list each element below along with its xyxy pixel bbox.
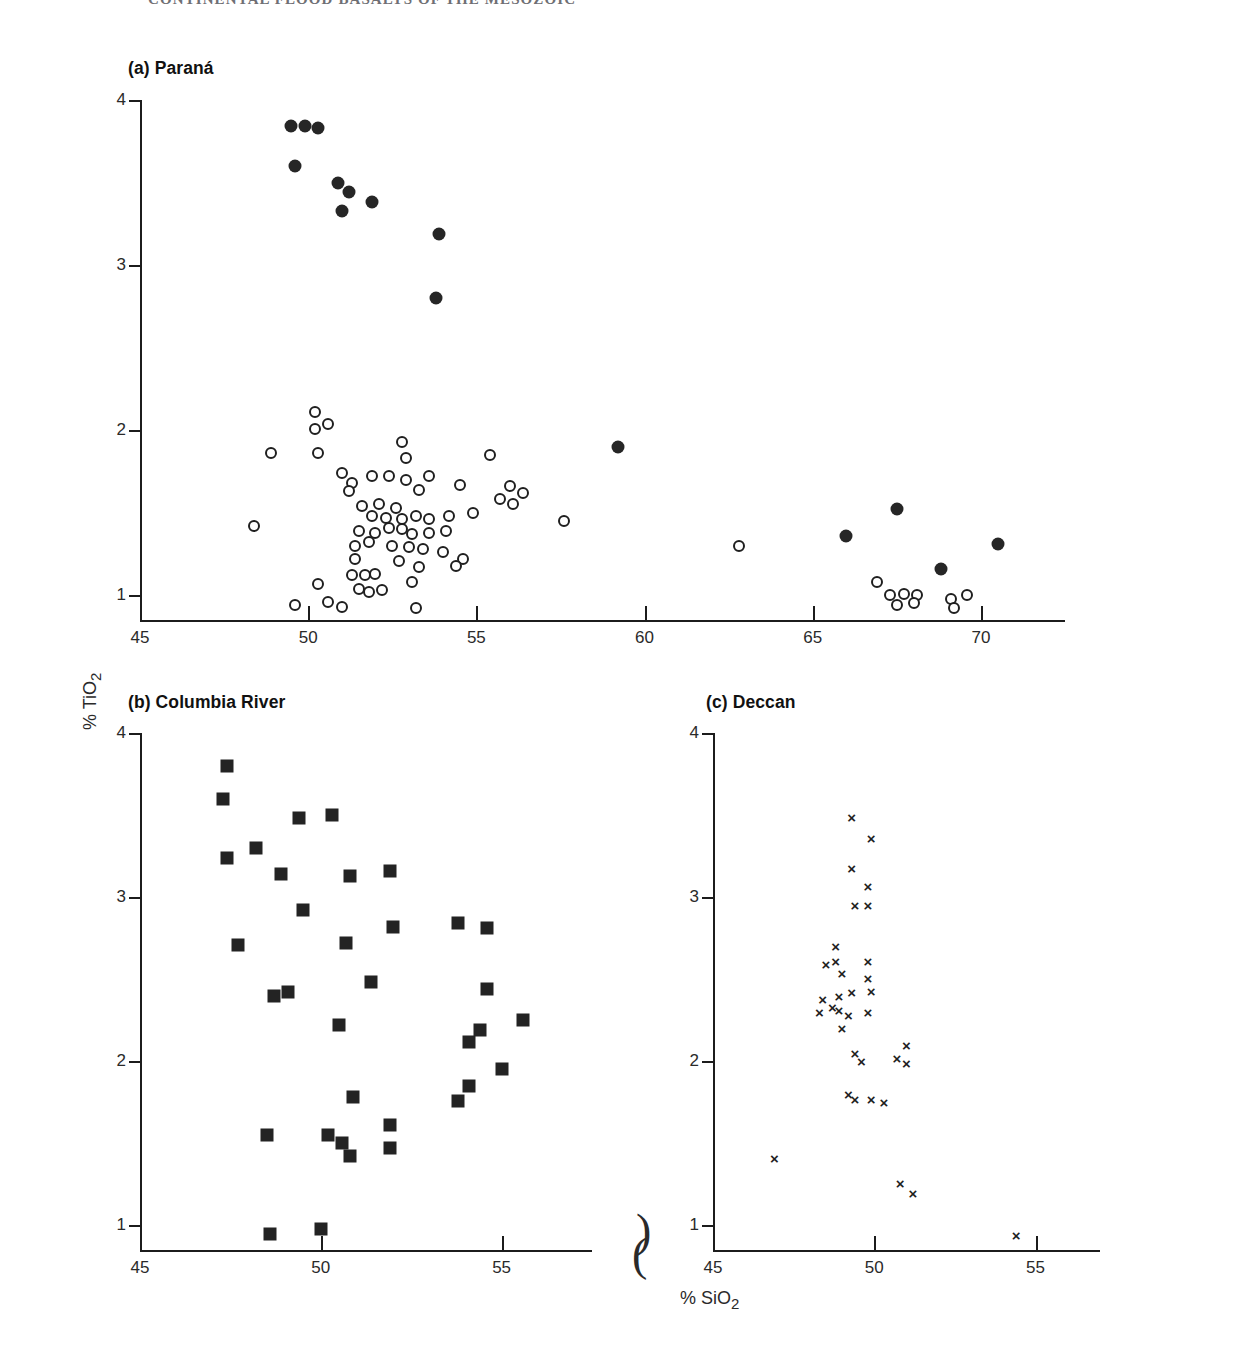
- data-point-a-s1-44: [403, 541, 415, 553]
- data-point-b-s0-31: [343, 1150, 356, 1163]
- y-tick-label-c-2: 2: [671, 1051, 699, 1071]
- x-tick-a-60: [645, 606, 647, 620]
- data-point-c-s0-21: ×: [836, 1022, 849, 1035]
- data-point-a-s0-14: [991, 538, 1004, 551]
- data-point-a-s0-13: [934, 562, 947, 575]
- data-point-c-s0-26: ×: [900, 1056, 913, 1069]
- data-point-a-s0-7: [366, 196, 379, 209]
- x-tick-c-50: [874, 1236, 876, 1250]
- x-tick-label-a-50: 50: [299, 628, 318, 648]
- data-point-b-s0-12: [387, 920, 400, 933]
- data-point-b-s0-9: [296, 904, 309, 917]
- data-point-b-s0-11: [340, 937, 353, 950]
- y-tick-a-4: [129, 100, 142, 102]
- data-point-a-s1-50: [413, 561, 425, 573]
- data-point-b-s0-16: [282, 986, 295, 999]
- data-point-c-s0-33: ×: [906, 1186, 919, 1199]
- panel-title-b: (b) Columbia River: [128, 692, 285, 713]
- data-point-c-s0-6: ×: [829, 940, 842, 953]
- data-point-a-s1-20: [356, 500, 368, 512]
- data-point-a-s1-60: [289, 599, 301, 611]
- data-point-c-s0-9: ×: [836, 966, 849, 979]
- data-point-b-s0-0: [220, 759, 233, 772]
- data-point-a-s1-19: [248, 520, 260, 532]
- x-tick-label-a-70: 70: [971, 628, 990, 648]
- data-point-a-s1-22: [390, 502, 402, 514]
- y-axis-title-subscript: 2: [87, 673, 104, 681]
- x-tick-label-c-50: 50: [865, 1258, 884, 1278]
- x-tick-label-a-55: 55: [467, 628, 486, 648]
- y-tick-label-a-4: 4: [98, 90, 126, 110]
- y-tick-b-1: [129, 1225, 142, 1227]
- y-tick-label-a-3: 3: [98, 255, 126, 275]
- data-point-a-s1-68: [891, 599, 903, 611]
- data-point-a-s1-49: [393, 555, 405, 567]
- data-point-a-s1-1: [309, 423, 321, 435]
- data-point-a-s0-8: [433, 227, 446, 240]
- y-tick-label-b-3: 3: [98, 887, 126, 907]
- y-tick-b-2: [129, 1061, 142, 1063]
- y-tick-b-3: [129, 897, 142, 899]
- y-tick-label-c-4: 4: [671, 723, 699, 743]
- x-tick-a-55: [476, 606, 478, 620]
- data-point-b-s0-2: [220, 851, 233, 864]
- data-point-a-s1-38: [406, 528, 418, 540]
- x-axis-title: % SiO2: [680, 1288, 739, 1312]
- y-tick-label-a-2: 2: [98, 420, 126, 440]
- data-point-b-s0-4: [293, 812, 306, 825]
- data-point-a-s1-45: [417, 543, 429, 555]
- data-point-b-s0-6: [275, 868, 288, 881]
- data-point-c-s0-1: ×: [865, 832, 878, 845]
- data-point-a-s1-64: [871, 576, 883, 588]
- data-point-b-s0-18: [481, 983, 494, 996]
- data-point-c-s0-30: ×: [877, 1096, 890, 1109]
- data-point-a-s1-11: [383, 470, 395, 482]
- data-point-b-s0-34: [314, 1222, 327, 1235]
- data-point-a-s0-2: [312, 122, 325, 135]
- data-point-a-s1-59: [376, 584, 388, 596]
- data-point-b-s0-14: [481, 922, 494, 935]
- data-point-a-s1-0: [309, 406, 321, 418]
- data-point-c-s0-0: ×: [845, 810, 858, 823]
- x-axis-title-main: % SiO: [680, 1288, 731, 1308]
- x-tick-a-70: [981, 606, 983, 620]
- data-point-b-s0-3: [249, 841, 262, 854]
- data-point-a-s1-54: [369, 568, 381, 580]
- data-point-a-s1-12: [400, 474, 412, 486]
- data-point-a-s1-28: [410, 510, 422, 522]
- data-point-c-s0-2: ×: [845, 861, 858, 874]
- data-point-b-s0-29: [322, 1129, 335, 1142]
- data-point-a-s1-18: [517, 487, 529, 499]
- data-point-a-s0-3: [288, 160, 301, 173]
- data-point-a-s1-36: [383, 522, 395, 534]
- data-point-c-s0-14: ×: [845, 986, 858, 999]
- data-point-c-s0-10: ×: [861, 955, 874, 968]
- data-point-a-s0-10: [611, 440, 624, 453]
- x-tick-c-55: [1036, 1236, 1038, 1250]
- data-point-b-s0-21: [473, 1024, 486, 1037]
- data-point-a-s1-25: [366, 510, 378, 522]
- y-tick-b-4: [129, 733, 142, 735]
- data-point-b-s0-5: [325, 809, 338, 822]
- data-point-b-s0-22: [517, 1014, 530, 1027]
- data-point-a-s0-11: [890, 503, 903, 516]
- x-axis-line-c: [713, 1250, 1100, 1252]
- y-tick-a-1: [129, 595, 142, 597]
- x-axis-line-b: [140, 1250, 592, 1252]
- x-tick-b-50: [321, 1236, 323, 1250]
- data-point-b-s0-30: [336, 1137, 349, 1150]
- data-point-a-s1-41: [349, 540, 361, 552]
- data-point-a-s1-2: [322, 418, 334, 430]
- y-tick-label-c-3: 3: [671, 887, 699, 907]
- x-tick-a-50: [308, 606, 310, 620]
- data-point-b-s0-25: [463, 1079, 476, 1092]
- axis-break-symbol-lower: (: [632, 1232, 647, 1278]
- data-point-a-s1-62: [336, 601, 348, 613]
- y-axis-title-main: % TiO: [80, 681, 100, 730]
- x-tick-label-c-45: 45: [704, 1258, 723, 1278]
- panel-title-a: (a) Paraná: [128, 58, 214, 79]
- data-point-b-s0-10: [231, 938, 244, 951]
- data-point-a-s1-61: [322, 596, 334, 608]
- data-point-a-s1-10: [366, 470, 378, 482]
- data-point-a-s1-31: [467, 507, 479, 519]
